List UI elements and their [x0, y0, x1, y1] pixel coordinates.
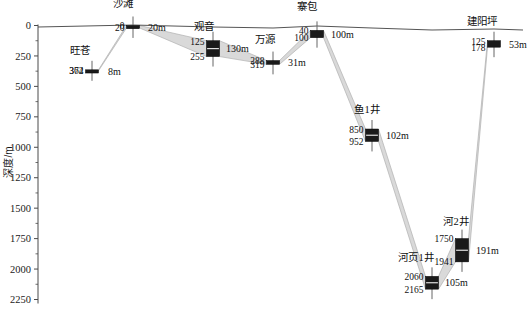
well-bottom-depth-label: 178 — [471, 43, 486, 53]
well-bottom-depth-label: 100 — [294, 33, 309, 43]
well-name-label: 万源 — [255, 33, 276, 45]
well-name-label: 寨包 — [297, 0, 318, 12]
well-top-depth-label: 1750 — [435, 234, 454, 244]
well-bottom-depth-label: 372 — [69, 66, 84, 76]
y-axis-title-layer: 深度/m — [2, 146, 14, 177]
well-name-label: 鱼1井 — [354, 103, 379, 115]
well-top-depth-label: 2060 — [405, 272, 424, 282]
y-axis-tick-label: 750 — [15, 111, 31, 122]
well-name-label: 河2井 — [443, 215, 468, 227]
well-top-depth-label: 850 — [349, 125, 364, 135]
y-axis-tick-label: 500 — [15, 81, 31, 92]
y-axis-tick-label: 250 — [15, 51, 31, 62]
well-correlation-chart: 0250500750100012501500175020002250 旺苍364… — [0, 0, 531, 318]
well-bottom-depth-label: 20 — [115, 23, 125, 33]
well-thickness-label: 105m — [445, 277, 468, 288]
cross-section-svg: 0250500750100012501500175020002250 旺苍364… — [0, 0, 531, 318]
well-bottom-depth-label: 952 — [349, 137, 364, 147]
y-axis-tick-label: 0 — [26, 20, 31, 31]
well-thickness-label: 20m — [148, 22, 166, 33]
y-axis-tick-label: 1500 — [10, 203, 31, 214]
well-thickness-label: 130m — [226, 43, 249, 54]
well-top-depth-label: 125 — [190, 37, 205, 47]
well-thickness-label: 53m — [509, 39, 527, 50]
well-name-label: 沙滩 — [113, 0, 134, 9]
well-bottom-depth-label: 255 — [190, 52, 205, 62]
well-name-label: 建阳坪 — [467, 15, 498, 27]
well-thickness-label: 8m — [108, 66, 121, 77]
stratigraphic-interval-box — [311, 30, 324, 37]
well-name-label: 观音 — [194, 20, 214, 32]
stratigraphic-interval-box — [86, 70, 99, 73]
y-axis-tick-label: 2000 — [10, 264, 31, 275]
well-bottom-depth-label: 2165 — [405, 285, 424, 295]
well-thickness-label: 100m — [331, 29, 354, 40]
well-bottom-depth-label: 319 — [250, 60, 265, 70]
stratigraphic-interval-box — [267, 61, 280, 65]
stratigraphic-interval-box — [488, 41, 501, 47]
stratigraphic-interval-box — [127, 26, 140, 29]
y-axis-title: 深度/m — [2, 146, 14, 177]
y-axis-tick-label: 2250 — [10, 294, 31, 305]
y-axis-tick-label: 1750 — [10, 233, 31, 244]
well-thickness-label: 102m — [386, 130, 409, 141]
well-name-label: 旺苍 — [70, 44, 91, 56]
well-thickness-label: 31m — [288, 57, 306, 68]
well-bottom-depth-label: 1941 — [435, 257, 454, 267]
well-name-label: 河页1井 — [398, 251, 433, 263]
well-thickness-label: 191m — [476, 245, 499, 256]
